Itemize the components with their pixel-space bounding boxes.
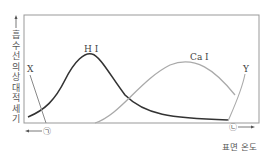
marker-left: ㉠ bbox=[43, 125, 51, 136]
label-h-i: H I bbox=[84, 44, 98, 54]
x-right-arrow-head bbox=[251, 126, 255, 129]
label-y: Y bbox=[243, 64, 249, 74]
label-x: X bbox=[27, 64, 33, 74]
y-arrow-head bbox=[15, 15, 18, 19]
label-ca-i: Ca I bbox=[190, 52, 209, 62]
curve-y bbox=[228, 74, 245, 121]
y-axis-label: 흡수선의 상대적 세기 bbox=[10, 30, 22, 125]
marker-right: ㉡ bbox=[229, 121, 237, 132]
x-left-arrow-head bbox=[25, 130, 29, 133]
spectral-line-diagram bbox=[0, 0, 268, 159]
curve-ca-i bbox=[95, 62, 235, 123]
x-axis-label: 표면 온도 bbox=[222, 140, 257, 152]
